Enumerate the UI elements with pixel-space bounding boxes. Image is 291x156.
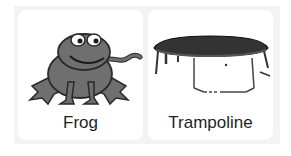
sprite-card-trampoline[interactable]: Trampoline [148, 10, 273, 140]
sprite-label: Frog [18, 113, 143, 133]
sprite-card-frog[interactable]: Frog [18, 10, 143, 140]
frog-icon [18, 16, 143, 106]
sprite-library-panel: Frog Trampoline [14, 6, 280, 144]
sprite-label: Trampoline [148, 113, 273, 133]
trampoline-icon [148, 16, 273, 106]
